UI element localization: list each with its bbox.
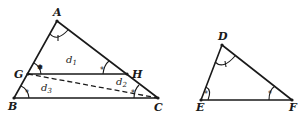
label-f: F: [288, 101, 298, 114]
angle-e-asterisk: *: [204, 90, 208, 99]
label-d1: d1: [66, 54, 77, 67]
vertex-a: [55, 19, 58, 22]
label-a: A: [52, 6, 62, 19]
vertex-h: [125, 72, 128, 75]
angle-d-tick: [225, 61, 226, 67]
label-d: D: [217, 30, 228, 43]
label-d2: d2: [116, 76, 127, 89]
triangle-abc: * * * * A B C G H d1 d2 d3: [7, 6, 163, 114]
similar-triangles-diagram: * * * * A B C G H d1 d2 d3: [0, 0, 306, 116]
vertex-d: [220, 43, 223, 46]
label-g: G: [14, 68, 23, 81]
label-e: E: [195, 101, 205, 114]
vertex-c: [156, 96, 159, 99]
segment-df: [222, 45, 292, 100]
label-h: H: [131, 68, 143, 81]
angle-g-asterisk: *: [38, 65, 42, 74]
angle-h-asterisk: *: [100, 66, 104, 75]
angle-f-asterisk: *: [268, 90, 272, 99]
angle-b-asterisk: *: [25, 89, 29, 98]
label-c: C: [154, 101, 163, 114]
label-d3: d3: [41, 82, 52, 95]
label-b: B: [7, 100, 17, 113]
angle-c-asterisk: *: [131, 89, 135, 98]
triangle-def: * * D E F: [195, 30, 298, 114]
vertex-g: [26, 72, 29, 75]
angle-a-arc: [50, 30, 68, 37]
